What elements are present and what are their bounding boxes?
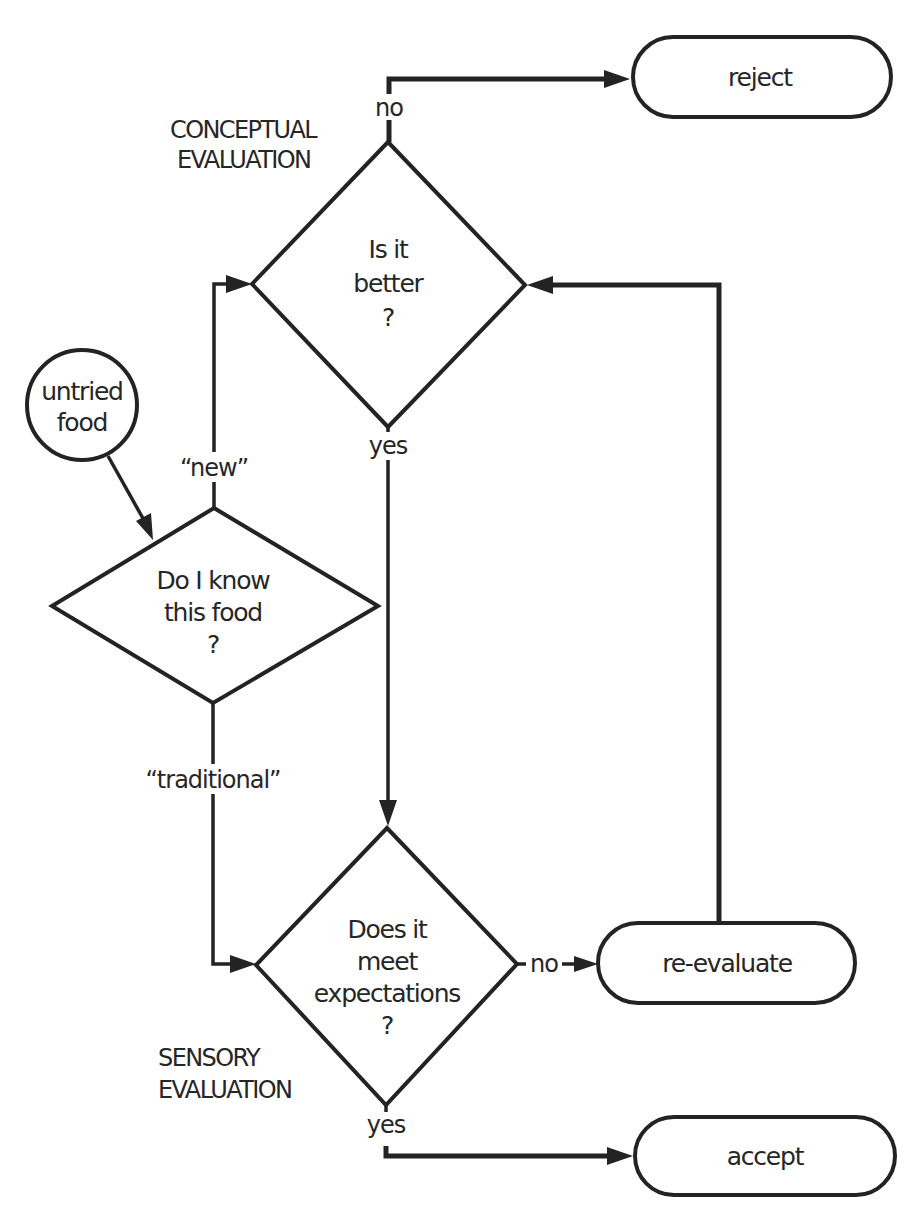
decision-expectations-line-2: meet	[357, 947, 419, 976]
decision-known-line-3: ?	[207, 630, 219, 659]
arrowhead-icon	[226, 275, 252, 293]
decision-known-line-2: this food	[164, 598, 262, 627]
arrowhead-icon	[230, 955, 256, 973]
edge-label-new-text: “new”	[180, 454, 248, 482]
node-untried-food-line-1: untried	[41, 377, 123, 406]
arrowhead-icon	[527, 276, 553, 294]
decision-expectations-line-1: Does it	[347, 915, 428, 944]
edge-label-better-yes: yes	[368, 432, 408, 460]
edge-traditional-to-expectations	[213, 703, 256, 973]
node-terminal-accept[interactable]: accept	[635, 1117, 895, 1195]
node-terminal-reject[interactable]: reject	[633, 37, 891, 117]
section-sensory-line-2: EVALUATION	[158, 1076, 291, 1104]
decision-better-line-2: better	[353, 269, 424, 298]
decision-known-line-1: Do I know	[156, 566, 270, 595]
node-decision-do-i-know-this-food[interactable]: Do I know this food ?	[52, 508, 378, 703]
decision-expectations-line-3: expectations	[314, 979, 461, 1008]
decision-better-line-3: ?	[382, 303, 394, 332]
node-terminal-reevaluate[interactable]: re-evaluate	[598, 923, 855, 1003]
terminal-reevaluate-label: re-evaluate	[662, 949, 793, 978]
edge-label-yes-bottom: yes	[367, 1111, 406, 1139]
arrowhead-icon	[604, 70, 630, 88]
edge-label-new: “new”	[180, 452, 248, 482]
edge-label-traditional-text: “traditional”	[145, 766, 280, 794]
edge-label-yes-top: yes	[369, 432, 408, 460]
edge-label-better-no: no	[375, 94, 403, 122]
edge-expectations-yes-to-accept	[386, 1105, 633, 1165]
arrowhead-icon	[379, 800, 397, 826]
arrowhead-icon	[574, 956, 598, 972]
node-decision-is-it-better[interactable]: Is it better ?	[252, 142, 525, 427]
section-label-sensory-evaluation: SENSORY EVALUATION	[158, 1044, 291, 1104]
edge-start-to-known	[108, 456, 153, 540]
decision-expectations-line-4: ?	[381, 1011, 393, 1040]
edge-better-yes-to-expectations	[379, 427, 397, 826]
edge-reevaluate-to-better	[527, 276, 719, 923]
node-untried-food-line-2: food	[57, 408, 107, 437]
section-conceptual-line-2: EVALUATION	[177, 146, 310, 174]
edge-label-traditional: “traditional”	[145, 764, 280, 794]
edge-label-expectations-yes: yes	[366, 1111, 406, 1146]
arrowhead-icon	[607, 1147, 633, 1165]
node-untried-food[interactable]: untried food	[27, 350, 137, 460]
section-conceptual-line-1: CONCEPTUAL	[170, 116, 318, 144]
decision-better-line-1: Is it	[368, 235, 408, 264]
section-sensory-line-1: SENSORY	[158, 1044, 261, 1072]
terminal-reject-label: reject	[728, 63, 793, 92]
edge-better-no-to-reject	[389, 70, 630, 142]
edge-label-no-bottom: no	[530, 950, 558, 978]
terminal-accept-label: accept	[727, 1142, 805, 1171]
node-decision-meets-expectations[interactable]: Does it meet expectations ?	[256, 828, 517, 1105]
edge-label-no-top: no	[375, 94, 403, 122]
edge-label-expectations-no: no	[530, 950, 558, 978]
food-acceptance-flowchart: untried food Is it better ? Do I know th…	[0, 0, 920, 1227]
arrowhead-icon	[136, 513, 153, 540]
section-label-conceptual-evaluation: CONCEPTUAL EVALUATION	[170, 116, 318, 174]
